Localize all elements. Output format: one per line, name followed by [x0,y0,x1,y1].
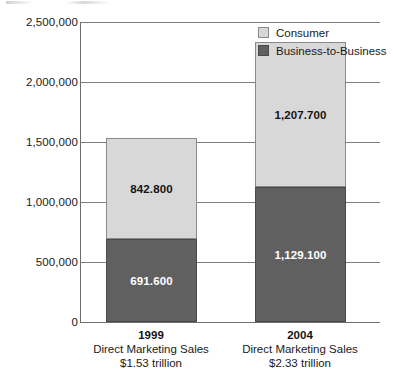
legend-label-consumer: Consumer [276,27,329,39]
bar-value-2004-consumer: 1,207.700 [274,109,326,121]
x-category-sub1-2004: Direct Marketing Sales [220,342,380,356]
legend-label-business-to-business: Business-to-Business [276,45,387,57]
x-category-year-2004: 2004 [220,328,380,342]
bar-2004[interactable]: 1,207.700 1,129.100 [255,42,346,322]
x-category-sub2-1999: $1.53 trillion [71,356,231,370]
bar-segment-2004-consumer[interactable]: 1,207.700 [255,42,346,187]
bar-value-1999-business-to-business: 691.600 [130,275,172,287]
x-category-sub2-2004: $2.33 trillion [220,356,380,370]
x-category-year-1999: 1999 [71,328,231,342]
plot-area: 842.800 691.600 1,207.700 1,129.100 [80,22,380,322]
y-tick-label-2000000: 2,000,000 [4,77,78,89]
y-tick-label-0: 0 [4,317,78,329]
legend-swatch-consumer-icon [258,27,269,38]
bar-value-2004-business-to-business: 1,129.100 [274,249,326,261]
legend-item-consumer[interactable]: Consumer [258,26,387,39]
y-tick-label-2500000: 2,500,000 [4,17,78,29]
legend: Consumer Business-to-Business [258,26,387,62]
bar-segment-1999-business-to-business[interactable]: 691.600 [106,239,197,322]
x-category-label-2004: 2004 Direct Marketing Sales $2.33 trilli… [220,328,380,370]
stacked-bar-chart: 2,500,000 2,000,000 1,500,000 1,000,000 … [0,0,393,375]
y-tick-label-1500000: 1,500,000 [4,137,78,149]
bar-value-1999-consumer: 842.800 [130,183,172,195]
y-tick-label-1000000: 1,000,000 [4,197,78,209]
bar-segment-2004-business-to-business[interactable]: 1,129.100 [255,187,346,322]
y-axis-labels: 2,500,000 2,000,000 1,500,000 1,000,000 … [0,0,78,375]
gridline-2500000 [80,22,380,23]
x-category-label-1999: 1999 Direct Marketing Sales $1.53 trilli… [71,328,231,370]
bar-segment-1999-consumer[interactable]: 842.800 [106,138,197,239]
y-tick-label-500000: 500,000 [4,257,78,269]
legend-item-business-to-business[interactable]: Business-to-Business [258,44,387,57]
x-axis-line [80,322,380,323]
bar-1999[interactable]: 842.800 691.600 [106,138,197,322]
legend-swatch-business-to-business-icon [258,45,269,56]
x-category-sub1-1999: Direct Marketing Sales [71,342,231,356]
